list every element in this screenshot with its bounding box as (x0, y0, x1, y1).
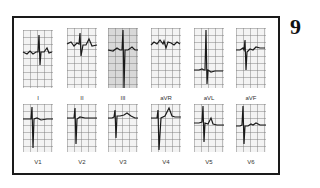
ecg-panel-lead-v3 (108, 104, 138, 152)
ecg-panel-lead-v1 (23, 104, 53, 152)
lead-label-avl: aVL (189, 95, 229, 101)
lead-label-v6: V6 (231, 159, 271, 165)
ecg-trace (151, 104, 181, 152)
ecg-panel-lead-avr (151, 28, 181, 88)
lead-label-v4: V4 (146, 159, 186, 165)
ecg-panel-lead-v6 (236, 104, 266, 152)
lead-label-v3: V3 (103, 159, 143, 165)
ecg-trace (151, 28, 181, 88)
lead-label-v1: V1 (18, 159, 58, 165)
lead-label-ii: II (62, 95, 102, 101)
lead-label-v5: V5 (189, 159, 229, 165)
ecg-trace (23, 104, 53, 152)
ecg-trace (108, 104, 138, 152)
ecg-trace (23, 30, 53, 88)
ecg-trace (236, 28, 266, 88)
lead-label-v2: V2 (62, 159, 102, 165)
lead-label-avf: aVF (231, 95, 271, 101)
ecg-trace (194, 104, 224, 152)
ecg-panel-lead-i (23, 30, 53, 88)
ecg-panel-lead-v2 (67, 104, 97, 152)
lead-label-i: I (18, 95, 58, 101)
ecg-panel-lead-v4 (151, 104, 181, 152)
ecg-panel-lead-iii (108, 28, 138, 88)
lead-label-avr: aVR (146, 95, 186, 101)
figure-number: 9 (290, 14, 301, 40)
ecg-panel-lead-avl (194, 28, 224, 88)
ecg-trace (108, 28, 138, 88)
ecg-panel-lead-v5 (194, 104, 224, 152)
lead-label-iii: III (103, 95, 143, 101)
ecg-trace (236, 104, 266, 152)
ecg-panel-lead-ii (67, 28, 97, 88)
ecg-trace (194, 28, 224, 88)
ecg-panel-lead-avf (236, 28, 266, 88)
ecg-trace (67, 28, 97, 88)
ecg-trace (67, 104, 97, 152)
